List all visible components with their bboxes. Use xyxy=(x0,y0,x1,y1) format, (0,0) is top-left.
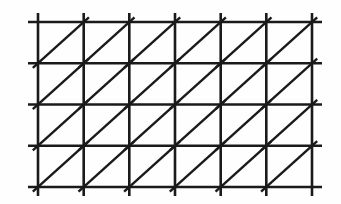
figure-canvas xyxy=(0,0,341,204)
grid-mesh-diagram xyxy=(0,0,341,204)
background-rect xyxy=(0,0,341,204)
